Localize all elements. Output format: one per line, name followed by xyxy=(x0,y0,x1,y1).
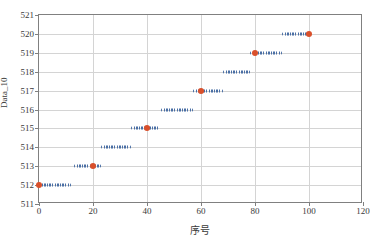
y-axis-title: Data_10 xyxy=(0,78,9,109)
y-tick-label: 520 xyxy=(21,29,35,39)
highlight-marker xyxy=(36,182,42,188)
y-tick-label: 515 xyxy=(21,123,35,133)
x-tick-label: 100 xyxy=(302,206,316,216)
gridline-horizontal xyxy=(39,185,361,186)
highlight-marker xyxy=(306,31,312,37)
gridline-horizontal xyxy=(39,34,361,35)
y-tick-label: 516 xyxy=(21,105,35,115)
y-tick-mark xyxy=(35,166,39,167)
y-tick-mark xyxy=(35,53,39,54)
highlight-marker xyxy=(198,88,204,94)
y-tick-mark xyxy=(35,72,39,73)
gridline-horizontal xyxy=(39,128,361,129)
y-tick-label: 513 xyxy=(21,161,35,171)
y-tick-label: 514 xyxy=(21,142,35,152)
plot-area: 511512513514515516517518519520521 020406… xyxy=(38,14,362,203)
highlight-marker xyxy=(90,163,96,169)
y-tick-mark xyxy=(35,15,39,16)
data-step-segment xyxy=(101,146,131,149)
y-tick-mark xyxy=(35,34,39,35)
x-tick-label: 0 xyxy=(37,206,42,216)
x-tick-label: 60 xyxy=(197,206,206,216)
y-tick-mark xyxy=(35,128,39,129)
highlight-marker xyxy=(252,50,258,56)
x-tick-label: 120 xyxy=(356,206,370,216)
gridline-vertical xyxy=(255,15,256,202)
data-step-segment xyxy=(74,165,101,168)
gridline-vertical xyxy=(93,15,94,202)
gridline-horizontal xyxy=(39,72,361,73)
data-step-segment xyxy=(223,70,250,73)
gridline-vertical xyxy=(201,15,202,202)
y-tick-label: 512 xyxy=(21,180,35,190)
y-tick-label: 519 xyxy=(21,48,35,58)
x-tick-label: 20 xyxy=(89,206,98,216)
gridline-vertical xyxy=(309,15,310,202)
x-tick-label: 80 xyxy=(251,206,260,216)
y-tick-label: 521 xyxy=(21,10,35,20)
y-tick-label: 517 xyxy=(21,86,35,96)
y-tick-mark xyxy=(35,147,39,148)
data-step-segment xyxy=(161,108,193,111)
highlight-marker xyxy=(144,125,150,131)
gridline-horizontal xyxy=(39,53,361,54)
x-axis-title: 序号 xyxy=(38,222,362,237)
gridline-horizontal xyxy=(39,110,361,111)
gridline-horizontal xyxy=(39,147,361,148)
y-tick-mark xyxy=(35,110,39,111)
x-tick-label: 40 xyxy=(143,206,152,216)
y-tick-mark xyxy=(35,91,39,92)
data-step-segment xyxy=(39,184,71,187)
y-tick-label: 511 xyxy=(21,199,34,209)
data-step-segment xyxy=(282,32,309,35)
chart-figure: 511512513514515516517518519520521 020406… xyxy=(0,0,384,243)
y-tick-label: 518 xyxy=(21,67,35,77)
gridline-vertical xyxy=(147,15,148,202)
